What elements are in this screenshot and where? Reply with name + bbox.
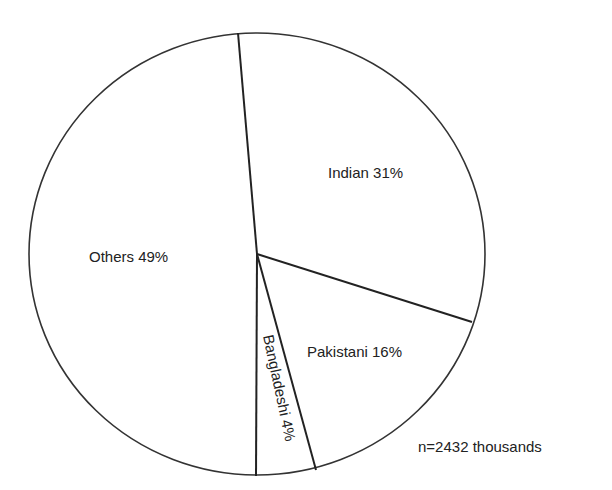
pie-chart: Indian 31% Pakistani 16% Others 49% Bang… [0, 0, 612, 490]
sample-size-note: n=2432 thousands [418, 438, 542, 455]
slice-label-others: Others 49% [89, 248, 168, 265]
slice-label-indian: Indian 31% [328, 164, 403, 181]
slice-divider-bottom [256, 254, 257, 476]
slice-label-pakistani: Pakistani 16% [307, 343, 402, 360]
